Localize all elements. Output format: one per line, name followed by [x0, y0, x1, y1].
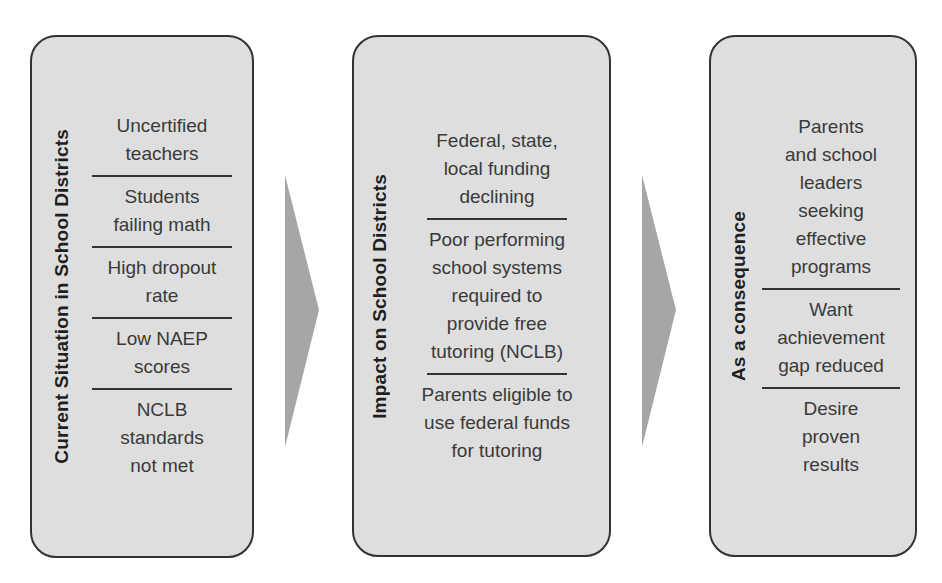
list-item: Poor performing school systems required … [429, 220, 565, 373]
box-title-text: Current Situation in School Districts [51, 129, 73, 464]
arrow-right-icon [640, 173, 680, 451]
box-title-current-situation: Current Situation in School Districts [46, 37, 78, 556]
list-item: Want achievement gap reduced [777, 290, 885, 387]
list-item: Parents and school leaders seeking effec… [785, 107, 877, 288]
box-impact: Impact on School Districts Federal, stat… [352, 35, 611, 557]
list-item: High dropout rate [108, 248, 217, 317]
process-flow-diagram: Current Situation in School Districts Un… [0, 0, 942, 583]
list-item: Uncertified teachers [117, 106, 208, 175]
list-item: NCLB standards not met [120, 390, 203, 487]
item-list-impact: Federal, state, local funding declining … [406, 37, 588, 555]
item-list-consequence: Parents and school leaders seeking effec… [759, 37, 903, 555]
box-title-consequence: As a consequence [723, 37, 755, 555]
list-item: Parents eligible to use federal funds fo… [421, 375, 572, 472]
item-list-current-situation: Uncertified teachers Students failing ma… [90, 37, 234, 556]
list-item: Students failing math [113, 177, 210, 246]
list-item: Low NAEP scores [116, 319, 208, 388]
box-consequence: As a consequence Parents and school lead… [709, 35, 917, 557]
list-item: Federal, state, local funding declining [436, 121, 557, 218]
box-title-impact: Impact on School Districts [364, 37, 396, 555]
box-title-text: As a consequence [728, 211, 750, 381]
arrow-right-icon [283, 173, 323, 451]
list-item: Desire proven results [802, 389, 860, 486]
box-current-situation: Current Situation in School Districts Un… [30, 35, 254, 558]
box-title-text: Impact on School Districts [369, 174, 391, 419]
